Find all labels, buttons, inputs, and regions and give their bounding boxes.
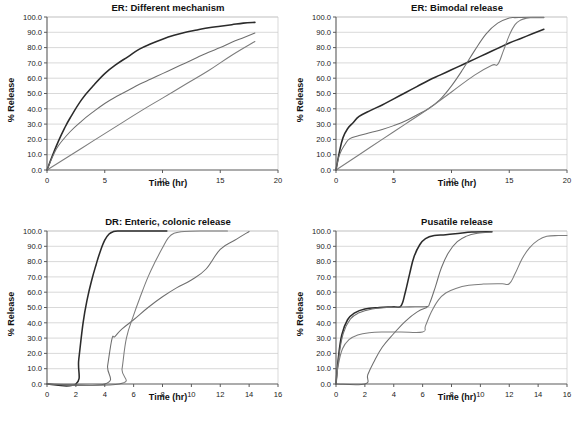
- chart-title: Pusatile release: [421, 216, 493, 227]
- x-tick-label: 0: [45, 176, 49, 185]
- y-tick-label: 40.0: [27, 319, 42, 328]
- tick-labels: 0.010.020.030.040.050.060.070.080.090.01…: [23, 13, 282, 185]
- gridlines: [47, 231, 278, 384]
- tick-labels: 0.010.020.030.040.050.060.070.080.090.01…: [23, 227, 282, 399]
- y-tick-label: 70.0: [27, 59, 42, 68]
- y-tick-label: 30.0: [316, 334, 331, 343]
- x-tick-label: 0: [45, 390, 49, 399]
- axes: [333, 17, 567, 173]
- y-tick-label: 80.0: [316, 43, 331, 52]
- series-line: [47, 33, 255, 170]
- x-tick-label: 14: [534, 390, 542, 399]
- y-tick-label: 0.0: [31, 166, 42, 175]
- x-tick-label: 4: [103, 390, 107, 399]
- y-axis-label: % Release: [295, 292, 305, 337]
- x-axis-label: Time (hr): [149, 392, 187, 402]
- y-tick-label: 80.0: [27, 257, 42, 266]
- series-line: [47, 231, 227, 385]
- x-tick-label: 0: [334, 176, 338, 185]
- y-tick-label: 70.0: [27, 273, 42, 282]
- x-tick-label: 20: [563, 176, 571, 185]
- y-tick-label: 100.0: [23, 227, 42, 236]
- chart-svg-3: Pusatile release 0.010.020.030.040.050.0…: [289, 214, 577, 428]
- y-tick-label: 20.0: [27, 135, 42, 144]
- x-tick-label: 6: [421, 390, 425, 399]
- series-line: [47, 22, 255, 170]
- tick-labels: 0.010.020.030.040.050.060.070.080.090.01…: [312, 227, 571, 399]
- chart-svg-0: ER: Different mechanism 0.010.020.030.04…: [0, 0, 288, 214]
- y-axis-label: % Release: [6, 78, 16, 123]
- series-line: [47, 231, 249, 385]
- x-tick-label: 12: [216, 390, 224, 399]
- y-tick-label: 70.0: [316, 273, 331, 282]
- y-axis-label: % Release: [295, 78, 305, 123]
- y-tick-label: 30.0: [27, 334, 42, 343]
- chart-panel-er-different-mechanism: ER: Different mechanism 0.010.020.030.04…: [0, 0, 288, 214]
- y-tick-label: 50.0: [27, 89, 42, 98]
- y-tick-label: 30.0: [27, 120, 42, 129]
- y-tick-label: 20.0: [316, 135, 331, 144]
- y-tick-label: 70.0: [316, 59, 331, 68]
- x-axis-label: Time (hr): [438, 178, 476, 188]
- x-tick-label: 0: [334, 390, 338, 399]
- y-tick-label: 80.0: [27, 43, 42, 52]
- chart-svg-1: ER: Bimodal release 0.010.020.030.040.05…: [289, 0, 577, 214]
- x-tick-label: 15: [505, 176, 513, 185]
- x-tick-label: 2: [74, 390, 78, 399]
- x-tick-label: 12: [505, 390, 513, 399]
- y-tick-label: 30.0: [316, 120, 331, 129]
- x-tick-label: 4: [392, 390, 396, 399]
- x-tick-label: 10: [476, 390, 484, 399]
- series-line: [47, 231, 167, 386]
- y-tick-label: 0.0: [320, 166, 331, 175]
- chart-title: ER: Different mechanism: [112, 2, 225, 13]
- x-tick-label: 2: [363, 390, 367, 399]
- y-tick-label: 90.0: [316, 242, 331, 251]
- y-tick-label: 60.0: [27, 74, 42, 83]
- chart-title: ER: Bimodal release: [411, 2, 503, 13]
- y-tick-label: 100.0: [312, 13, 331, 22]
- x-tick-label: 15: [216, 176, 224, 185]
- y-tick-label: 100.0: [312, 227, 331, 236]
- y-tick-label: 60.0: [316, 74, 331, 83]
- y-tick-label: 60.0: [316, 288, 331, 297]
- x-tick-label: 6: [132, 390, 136, 399]
- y-tick-label: 10.0: [27, 364, 42, 373]
- y-tick-label: 90.0: [316, 28, 331, 37]
- x-tick-label: 14: [245, 390, 253, 399]
- y-tick-label: 100.0: [23, 13, 42, 22]
- y-tick-label: 10.0: [27, 150, 42, 159]
- chart-panel-er-bimodal-release: ER: Bimodal release 0.010.020.030.040.05…: [289, 0, 577, 214]
- y-tick-label: 40.0: [316, 105, 331, 114]
- y-tick-label: 40.0: [316, 319, 331, 328]
- release-profile-figure: ER: Different mechanism 0.010.020.030.04…: [0, 0, 577, 428]
- y-axis-label: % Release: [6, 292, 16, 337]
- y-tick-label: 90.0: [27, 28, 42, 37]
- y-tick-label: 80.0: [316, 257, 331, 266]
- y-tick-label: 20.0: [27, 349, 42, 358]
- y-tick-label: 10.0: [316, 364, 331, 373]
- series-line: [336, 232, 492, 384]
- y-tick-label: 50.0: [316, 303, 331, 312]
- x-axis-label: Time (hr): [438, 392, 476, 402]
- plot-series: [47, 231, 249, 386]
- plot-series: [47, 22, 255, 170]
- chart-title: DR: Enteric, colonic release: [105, 216, 231, 227]
- x-tick-label: 16: [563, 390, 571, 399]
- y-tick-label: 0.0: [31, 380, 42, 389]
- y-tick-label: 40.0: [27, 105, 42, 114]
- chart-svg-2: DR: Enteric, colonic release 0.010.020.0…: [0, 214, 288, 428]
- y-tick-label: 60.0: [27, 288, 42, 297]
- y-tick-label: 90.0: [27, 242, 42, 251]
- x-tick-label: 20: [274, 176, 282, 185]
- y-tick-label: 50.0: [27, 303, 42, 312]
- x-tick-label: 16: [274, 390, 282, 399]
- x-tick-label: 10: [187, 390, 195, 399]
- chart-panel-dr-enteric-colonic-release: DR: Enteric, colonic release 0.010.020.0…: [0, 214, 288, 428]
- y-tick-label: 50.0: [316, 89, 331, 98]
- y-tick-label: 20.0: [316, 349, 331, 358]
- x-tick-label: 5: [392, 176, 396, 185]
- y-tick-label: 10.0: [316, 150, 331, 159]
- x-tick-label: 5: [103, 176, 107, 185]
- plot-series: [336, 232, 567, 385]
